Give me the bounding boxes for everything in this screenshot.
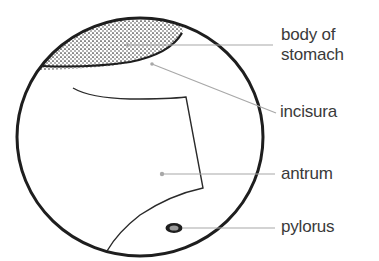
label-pylorus: pylorus: [281, 217, 334, 237]
antrum-boundary-line: [73, 88, 203, 251]
leader-dot-body: [126, 43, 130, 47]
leader-dot-antrum: [160, 172, 164, 176]
label-body-line1: body of: [281, 25, 344, 45]
label-body-of-stomach: body of stomach: [281, 25, 344, 65]
pylorus-opening: [166, 223, 183, 233]
label-body-line2: stomach: [281, 45, 344, 65]
stomach-diagram: body of stomach incisura antrum pylorus: [0, 0, 379, 261]
leader-line-incisura: [152, 64, 276, 113]
leader-dot-incisura: [150, 62, 154, 66]
label-antrum: antrum: [281, 164, 333, 184]
label-incisura: incisura: [280, 102, 337, 122]
